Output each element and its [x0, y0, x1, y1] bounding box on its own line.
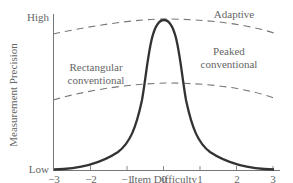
adaptive-curve: [53, 19, 274, 34]
precision-chart: High Low Measurement Precision −3 −2 −1 …: [0, 0, 293, 183]
y-high-label: High: [27, 11, 50, 23]
x-tick-label: −2: [85, 173, 97, 183]
x-tick-label: 2: [234, 173, 240, 183]
x-tick-label: −3: [48, 173, 60, 183]
peaked-annotation-line1: Peaked: [213, 45, 245, 57]
x-tick-label: 1: [197, 173, 203, 183]
y-low-label: Low: [29, 163, 49, 175]
adaptive-annotation: Adaptive: [214, 8, 254, 20]
peaked-annotation-line2: conventional: [201, 58, 258, 70]
x-axis-title: Item Difficulty: [131, 173, 198, 183]
rectangular-annotation-line2: conventional: [68, 74, 125, 86]
rectangular-annotation-line1: Rectangular: [69, 61, 122, 73]
x-tick-label: 3: [270, 173, 276, 183]
y-axis-title: Measurement Precision: [7, 43, 19, 147]
peaked-conventional-curve: [54, 20, 274, 170]
